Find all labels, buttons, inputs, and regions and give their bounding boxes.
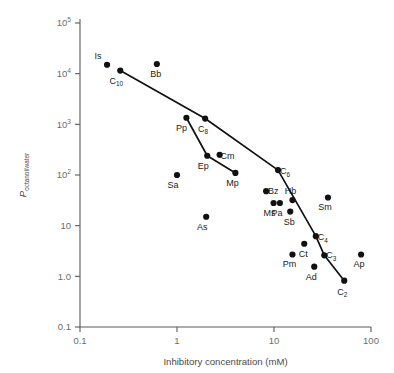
x-tick-label: 10	[269, 335, 280, 346]
point-label-Sb: Sb	[284, 217, 295, 227]
scatter-plot-figure: 105104103102101.00.1 0.1110100 IsC10BbPp…	[0, 0, 394, 373]
point-label-Ct: Ct	[299, 249, 308, 259]
x-tick-label: 1	[174, 335, 179, 346]
data-point-Ad	[311, 264, 317, 270]
point-label-Hb: Hb	[285, 186, 297, 196]
point-label-Mp: Mp	[226, 178, 239, 188]
point-label-Cm: Cm	[221, 151, 235, 161]
point-label-C10: C10	[109, 76, 123, 88]
point-label-Pm: Pm	[283, 259, 297, 269]
data-point-Ap	[358, 251, 364, 257]
point-label-As: As	[197, 222, 208, 232]
point-label-Ep: Ep	[198, 161, 209, 171]
point-label-Pp: Pp	[176, 123, 187, 133]
chart-canvas: 105104103102101.00.1 0.1110100 IsC10BbPp…	[0, 0, 394, 373]
point-label-C3: C3	[326, 250, 337, 262]
point-label-Sa: Sa	[167, 180, 178, 190]
y-tick-label: 0.1	[58, 321, 71, 332]
data-point-As	[203, 214, 209, 220]
series-lines	[120, 71, 344, 281]
point-label-C2: C2	[337, 287, 348, 299]
data-point-Hb	[289, 197, 295, 203]
data-point-Ms	[270, 200, 276, 206]
point-label-C8: C8	[198, 124, 209, 136]
x-axis-ticks: 0.1110100	[73, 327, 379, 346]
point-label-Bz: Bz	[268, 186, 279, 196]
data-point-C10	[117, 67, 123, 73]
data-point-Pp	[183, 115, 189, 121]
point-label-Is: Is	[95, 51, 103, 61]
point-label-Ap: Ap	[354, 259, 365, 269]
data-point-Ep	[204, 153, 210, 159]
x-axis-title: Inhibitory concentration (mM)	[163, 356, 287, 367]
y-tick-label: 1.0	[58, 271, 71, 282]
data-point-Sa	[174, 172, 180, 178]
data-point-C2	[341, 278, 347, 284]
data-point-Bb	[154, 61, 160, 67]
x-tick-label: 100	[363, 335, 379, 346]
y-tick-label: 105	[57, 16, 72, 28]
data-point-Ct	[301, 241, 307, 247]
data-point-Mp	[232, 170, 238, 176]
series-line-alkanol-series-upper	[120, 71, 344, 281]
data-point-Is	[104, 62, 110, 68]
point-label-Sm: Sm	[318, 202, 332, 212]
data-point-Pa	[277, 200, 283, 206]
series-line-anesthetic-series-lower	[186, 118, 235, 173]
y-axis-title: Poctanol/water	[17, 152, 30, 197]
y-axis-ticks: 105104103102101.00.1	[57, 16, 80, 332]
data-point-Pm	[289, 251, 295, 257]
axes	[80, 19, 371, 327]
x-axis-title-text: Inhibitory concentration (mM)	[163, 356, 287, 367]
data-points	[104, 61, 364, 284]
y-axis-title-text: Poctanol/water	[17, 152, 30, 197]
point-label-Pa: Pa	[271, 208, 282, 218]
point-label-Ad: Ad	[306, 272, 317, 282]
data-point-Sm	[325, 194, 331, 200]
y-tick-label: 103	[57, 118, 72, 130]
x-tick-label: 0.1	[73, 335, 86, 346]
point-label-C6: C6	[280, 166, 291, 178]
y-tick-label: 102	[57, 168, 72, 180]
data-point-Sb	[287, 208, 293, 214]
point-label-Bb: Bb	[150, 69, 161, 79]
data-point-labels: IsC10BbPpC8EpCmMpSaC6BzMsPaHbSbAsSmC4CtC…	[95, 51, 365, 299]
y-tick-label: 104	[57, 67, 72, 79]
y-tick-label: 10	[60, 220, 71, 231]
point-label-C4: C4	[318, 232, 329, 244]
data-point-C8	[202, 115, 208, 121]
